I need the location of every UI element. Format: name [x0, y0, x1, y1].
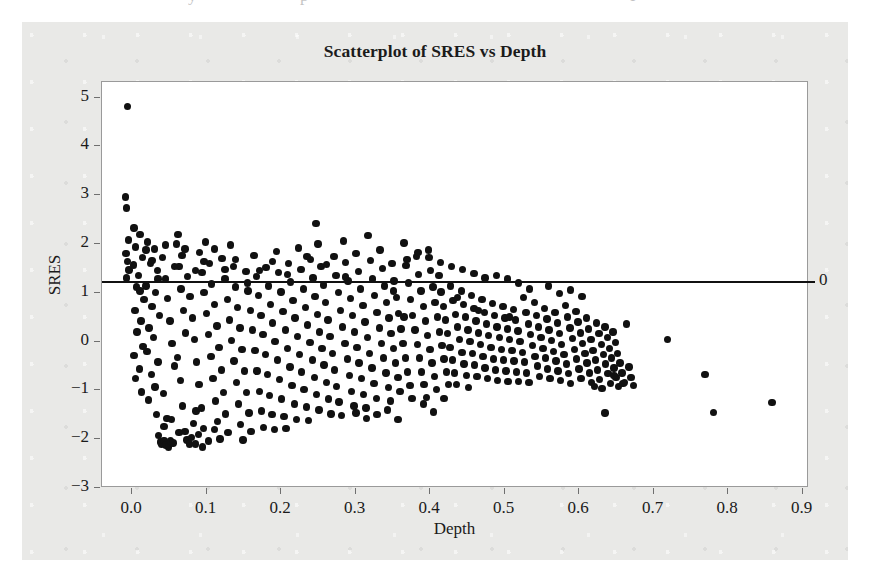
scatter-point: [487, 344, 494, 351]
x-tick-label: 0.4: [401, 498, 457, 518]
scatter-point: [148, 371, 155, 378]
scatter-point: [471, 361, 478, 368]
scatter-point: [543, 315, 550, 322]
scatter-point: [232, 256, 239, 263]
scatter-point: [226, 316, 233, 323]
scatter-point: [154, 267, 161, 274]
scatter-point: [218, 255, 225, 262]
scatter-point: [166, 317, 173, 324]
scatter-point: [174, 354, 181, 361]
scatter-point: [550, 348, 557, 355]
scatter-point: [607, 380, 614, 387]
scatter-point: [235, 400, 242, 407]
scatter-point: [431, 373, 438, 380]
scatter-point: [200, 258, 207, 265]
scatter-point: [565, 370, 572, 377]
scatter-point: [244, 287, 251, 294]
scatter-point: [238, 346, 245, 353]
scatter-point: [304, 321, 311, 328]
scatter-point: [169, 439, 176, 446]
scatter-point: [429, 283, 436, 290]
scatter-point: [586, 369, 593, 376]
y-tick-mark: [94, 292, 100, 293]
scatter-point: [313, 391, 320, 398]
scatter-point: [596, 376, 603, 383]
scatter-point: [563, 360, 570, 367]
scatter-point: [484, 375, 491, 382]
scatter-point: [414, 249, 421, 256]
scatter-point: [490, 355, 497, 362]
scatter-point: [491, 312, 498, 319]
scatter-point: [557, 377, 564, 384]
scatter-point: [324, 316, 331, 323]
x-tick-label: 0.9: [774, 498, 830, 518]
scatter-point: [171, 362, 178, 369]
scatter-point: [322, 299, 329, 306]
scatter-point: [468, 292, 475, 299]
scatter-point: [136, 287, 143, 294]
scatter-point: [422, 317, 429, 324]
scatter-point: [593, 319, 600, 326]
zero-reference-line-label: 0: [819, 270, 828, 290]
scatter-point: [347, 295, 354, 302]
scatter-point: [230, 357, 237, 364]
scatter-point: [388, 260, 395, 267]
scatter-point: [284, 345, 291, 352]
y-tick-mark: [94, 487, 100, 488]
scatter-point: [148, 303, 155, 310]
scatter-point: [393, 294, 400, 301]
scatter-point: [256, 388, 263, 395]
scatter-point: [548, 337, 555, 344]
scatter-point: [302, 304, 309, 311]
scatter-point: [312, 220, 319, 227]
x-tick-mark: [578, 488, 579, 494]
scatter-point: [250, 252, 257, 259]
scatter-point: [475, 307, 482, 314]
scatter-point: [131, 307, 138, 314]
scatter-point: [522, 309, 529, 316]
scatter-point: [124, 103, 131, 110]
scatter-point: [237, 421, 244, 428]
scatter-point: [132, 375, 139, 382]
scatter-point: [256, 267, 263, 274]
scatter-point: [297, 266, 304, 273]
scatter-point: [323, 379, 330, 386]
scatter-point: [440, 303, 447, 310]
scatter-point: [411, 326, 418, 333]
scatter-point: [475, 329, 482, 336]
scatter-point: [454, 294, 461, 301]
scatter-point: [300, 285, 307, 292]
scatter-point: [459, 266, 466, 273]
scatter-point: [473, 373, 480, 380]
scatter-point: [385, 384, 392, 391]
scatter-point: [255, 292, 262, 299]
scatter-point: [224, 296, 231, 303]
scatter-point: [339, 323, 346, 330]
y-tick-label: 1: [43, 281, 89, 301]
scatter-point: [273, 248, 280, 255]
scatter-point: [440, 355, 447, 362]
scatter-point: [145, 324, 152, 331]
scatter-point: [271, 426, 278, 433]
scatter-point: [465, 384, 472, 391]
scatter-point: [247, 307, 254, 314]
scatter-point: [447, 282, 454, 289]
scatter-point: [600, 351, 607, 358]
scatter-point: [710, 409, 717, 416]
scatter-point: [130, 352, 137, 359]
scatter-point: [357, 285, 364, 292]
scatter-point: [198, 404, 205, 411]
scatter-point: [513, 368, 520, 375]
page-bleed-text: y p I: [0, 0, 869, 16]
scatter-point: [160, 423, 167, 430]
scatter-point: [477, 341, 484, 348]
scatter-point: [433, 386, 440, 393]
scatter-point: [577, 329, 584, 336]
scatter-point: [390, 345, 397, 352]
scatter-point: [305, 417, 312, 424]
scatter-point: [434, 313, 441, 320]
scatter-point: [508, 347, 515, 354]
scatter-point: [212, 397, 219, 404]
scatter-point: [533, 312, 540, 319]
scatter-point: [456, 336, 463, 343]
